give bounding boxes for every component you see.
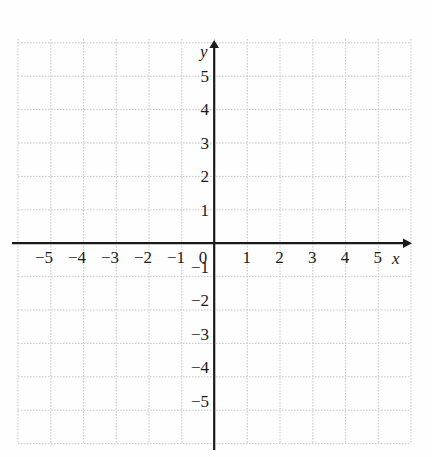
vertical-grid-lines	[18, 38, 412, 444]
x-tick-label-2: 2	[275, 249, 284, 266]
x-axis-line	[12, 238, 412, 248]
y-tick-label-2: 2	[201, 168, 210, 185]
x-tick-label-4: 4	[341, 249, 350, 266]
y-axis-line	[209, 40, 219, 450]
x-tick-label-neg3: −3	[101, 249, 119, 266]
x-tick-label-neg1: −1	[167, 249, 185, 266]
grid-lines	[0, 0, 432, 457]
y-axis-variable-label: y	[200, 43, 208, 60]
horizontal-grid-lines	[18, 42, 412, 444]
x-tick-label-3: 3	[308, 249, 317, 266]
x-tick-label-neg2: −2	[134, 249, 152, 266]
x-tick-label-1: 1	[243, 249, 252, 266]
y-tick-label-neg5: −5	[191, 392, 209, 409]
x-tick-label-neg4: −4	[68, 249, 86, 266]
x-tick-label-neg5: −5	[35, 249, 53, 266]
x-tick-label-5: 5	[374, 249, 383, 266]
axis-lines	[0, 0, 432, 457]
y-tick-label-1: 1	[201, 201, 210, 218]
y-tick-label-neg1: −1	[191, 259, 209, 276]
x-axis-variable-label: x	[392, 250, 400, 267]
y-tick-label-neg2: −2	[191, 292, 209, 309]
y-tick-label-neg3: −3	[191, 325, 209, 342]
y-tick-label-3: 3	[201, 134, 210, 151]
y-axis-arrowhead	[209, 40, 219, 48]
y-tick-label-5: 5	[201, 68, 210, 85]
coordinate-plane-figure: y x 0 −5 −4 −3 −2 −1 1 2 3 4 5 5 4 3 2 1…	[0, 0, 432, 457]
y-tick-label-4: 4	[201, 101, 210, 118]
x-axis-arrowhead	[403, 238, 412, 248]
y-tick-label-neg4: −4	[191, 359, 209, 376]
